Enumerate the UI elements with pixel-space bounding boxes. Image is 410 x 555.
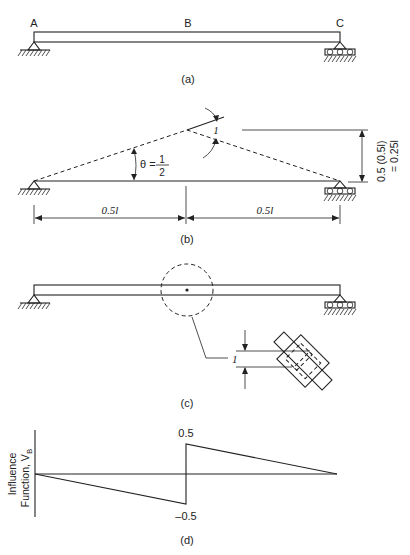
caption-a: (a) (181, 73, 194, 85)
dim-label-left: 0.5l (102, 204, 119, 216)
gap-label: 1 (232, 353, 238, 365)
caption-c: (c) (181, 397, 194, 409)
panel-b: 1 θ = 1 2 0.5 (0.5l) = 0.25l (18, 108, 400, 245)
theta-denominator: 2 (159, 167, 165, 178)
roller-support-icon (324, 181, 356, 201)
dim-label-right: 0.5l (257, 204, 274, 216)
roller-support-icon (324, 42, 356, 62)
top-value-label: 0.5 (178, 427, 193, 439)
label-b: B (184, 17, 191, 29)
hinge-point (185, 288, 188, 291)
y-axis-label: Influence Function, VB (6, 449, 34, 507)
theta-label: θ = (140, 158, 156, 170)
caption-b: (b) (180, 233, 193, 245)
roller-support-icon (324, 295, 356, 315)
svg-text:= 0.25l: = 0.25l (388, 140, 400, 172)
panel-a: A B C (a) (18, 17, 356, 85)
theta-numerator: 1 (159, 154, 165, 165)
panel-c: 1 (c) (18, 264, 356, 409)
caption-d: (d) (180, 534, 193, 546)
deflected-shape (34, 130, 340, 181)
rotation-label: 1 (213, 124, 219, 136)
svg-text:0.5 (0.5l): 0.5 (0.5l) (375, 141, 387, 182)
bottom-value-label: –0.5 (175, 510, 196, 522)
label-a: A (30, 17, 38, 29)
leader-line (192, 317, 228, 358)
pin-support-icon (18, 181, 50, 195)
pin-support-icon (18, 295, 50, 309)
svg-text:Influence: Influence (6, 453, 18, 496)
label-c: C (336, 17, 344, 29)
diagram-canvas: A B C (a) 1 (0, 0, 410, 555)
pin-support-icon (18, 42, 50, 56)
shear-release-icon (267, 325, 339, 397)
beam (34, 32, 340, 42)
deflection-label: 0.5 (0.5l) = 0.25l (375, 140, 400, 182)
svg-text:Function, VB: Function, VB (19, 449, 34, 507)
panel-d: 0.5 –0.5 Influence Function, VB (d) (6, 427, 337, 546)
